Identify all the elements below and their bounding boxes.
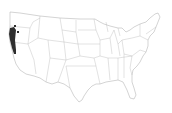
range-dot-oregon-north xyxy=(14,25,16,27)
us-map xyxy=(0,0,172,113)
range-dot-oregon xyxy=(17,31,19,33)
us-outline xyxy=(9,12,160,102)
